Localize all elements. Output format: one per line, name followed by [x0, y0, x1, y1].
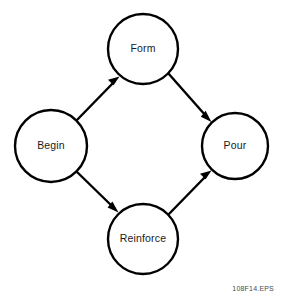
flow-diagram-canvas: Begin Form Reinforce Pour 108F14.EPS [0, 0, 286, 303]
node-pour[interactable]: Pour [202, 113, 268, 179]
edge-reinforce-to-pour-line [168, 176, 206, 215]
edge-reinforce-to-pour [168, 171, 212, 216]
edge-begin-to-reinforce [76, 171, 119, 213]
node-reinforce[interactable]: Reinforce [108, 204, 178, 274]
figure-caption: 108F14.EPS [232, 285, 274, 292]
node-form[interactable]: Form [108, 14, 178, 84]
edge-begin-to-form-line [76, 82, 114, 121]
edge-form-to-pour-line [168, 73, 206, 116]
node-begin-label: Begin [37, 139, 65, 151]
edge-begin-to-form-arrowhead [108, 77, 120, 86]
flow-diagram: Begin Form Reinforce Pour 108F14.EPS [0, 0, 286, 303]
node-pour-label: Pour [224, 139, 247, 151]
edge-reinforce-to-pour-arrowhead [200, 171, 212, 180]
edge-begin-to-form [76, 77, 120, 122]
edge-form-to-pour [168, 73, 212, 122]
node-form-label: Form [130, 42, 155, 54]
node-reinforce-label: Reinforce [120, 232, 166, 244]
edge-begin-to-reinforce-line [76, 171, 113, 207]
node-begin[interactable]: Begin [15, 110, 87, 182]
